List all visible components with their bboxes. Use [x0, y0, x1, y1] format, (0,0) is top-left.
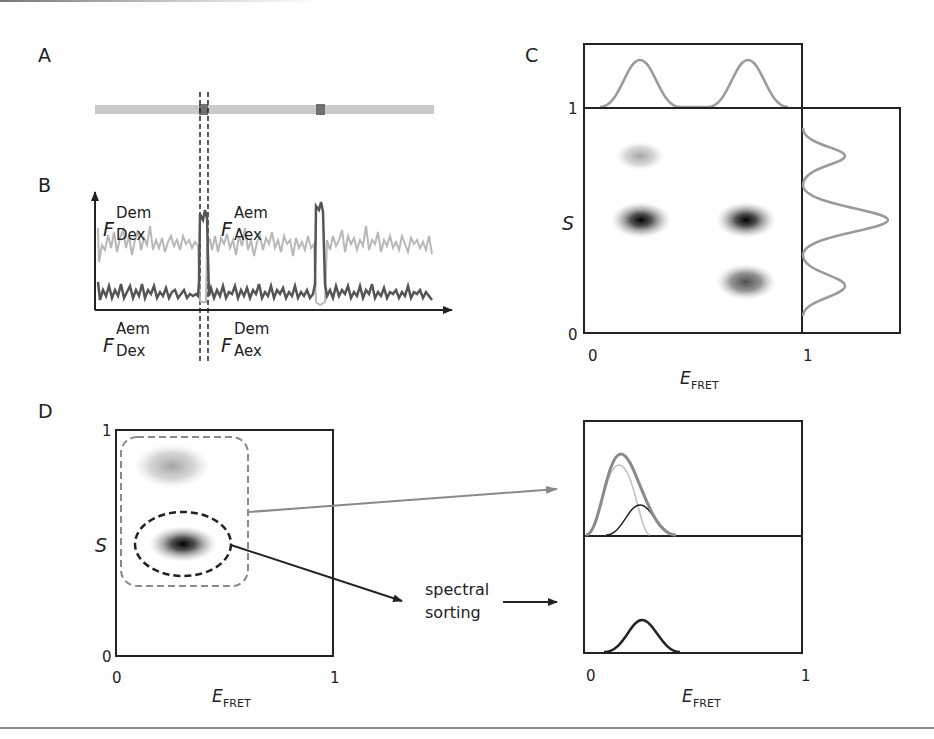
bottom-border	[0, 727, 934, 729]
c-x-tick-0: 0	[588, 347, 598, 365]
d-y-tick-0: 0	[102, 648, 112, 666]
annotation-spectral: spectral	[425, 580, 489, 599]
e-marginal-histogram	[600, 60, 788, 107]
label-f-dex-dem: F Dem Dex	[103, 204, 151, 244]
gated-histogram-box	[584, 421, 802, 536]
c-y-label: S	[562, 212, 574, 234]
population-low-e-high-s	[616, 142, 664, 170]
molecule-track-bar	[95, 105, 434, 114]
population-high-e-mid-s	[716, 202, 776, 238]
black-gate-arrow	[231, 545, 402, 601]
d-x-tick-1: 1	[330, 669, 340, 687]
panel-b: B F Dem Dex F Aem Aex F Aem Dex F Dem Ae…	[38, 174, 452, 360]
svg-text:Dex: Dex	[116, 342, 146, 360]
svg-text:FRET: FRET	[223, 697, 251, 710]
svg-text:E: E	[682, 686, 693, 706]
hist-x-tick-0: 0	[586, 667, 596, 685]
svg-text:E: E	[212, 686, 223, 706]
d-x-tick-0: 0	[112, 669, 122, 687]
svg-text:Dex: Dex	[116, 226, 146, 244]
d-y-label: S	[95, 534, 107, 556]
sorted-histogram-box	[584, 536, 802, 653]
d-population-mid-s	[149, 526, 217, 562]
svg-text:Aem: Aem	[116, 320, 150, 338]
figure: A B F Dem Dex F Aem Aex F Aem De	[0, 0, 934, 739]
c-x-label: E FRET	[680, 368, 719, 392]
label-f-aex-aem: F Aem Aex	[221, 204, 268, 244]
panel-a: A	[38, 44, 434, 115]
hist-x-tick-1: 1	[801, 667, 811, 685]
c-y-tick-1: 1	[568, 100, 578, 118]
svg-text:Dem: Dem	[234, 320, 269, 338]
s-marginal-histogram	[803, 128, 888, 316]
population-low-e-mid-s	[611, 202, 671, 238]
burst-marker-2	[316, 104, 325, 115]
gray-gate-arrow	[249, 489, 557, 512]
svg-text:Aem: Aem	[234, 204, 268, 222]
svg-text:F: F	[221, 334, 233, 356]
panel-c: C 1 0 S 0 1 E FRET	[525, 44, 900, 392]
panel-label-d: D	[38, 400, 53, 422]
d-scatter-x-label: E FRET	[212, 686, 251, 710]
label-f-aex-dem: F Dem Aex	[221, 320, 269, 360]
panel-label-c: C	[525, 44, 538, 66]
svg-text:F: F	[103, 334, 115, 356]
svg-text:FRET: FRET	[691, 379, 719, 392]
histogram-total	[586, 454, 676, 535]
svg-text:E: E	[680, 368, 691, 388]
d-y-tick-1: 1	[102, 422, 112, 440]
c-y-tick-0: 0	[568, 326, 578, 344]
svg-text:FRET: FRET	[693, 697, 721, 710]
label-f-dex-aem: F Aem Dex	[103, 320, 150, 360]
svg-text:F: F	[221, 218, 233, 240]
histogram-sorted	[604, 620, 680, 652]
population-high-e-low-s	[716, 264, 776, 300]
e-marginal-box	[584, 44, 802, 108]
panel-label-a: A	[38, 44, 51, 66]
svg-text:Aex: Aex	[234, 342, 262, 360]
svg-text:Dem: Dem	[116, 204, 151, 222]
c-x-tick-1: 1	[803, 347, 813, 365]
d-population-high-s	[134, 444, 210, 488]
panel-label-b: B	[38, 174, 51, 196]
svg-text:Aex: Aex	[234, 226, 262, 244]
panel-d: D 1 0 S 0 1 E FRET spectral sorting 0 1	[38, 400, 811, 710]
annotation-sorting: sorting	[425, 603, 481, 622]
hist-x-label: E FRET	[682, 686, 721, 710]
svg-text:F: F	[103, 218, 115, 240]
